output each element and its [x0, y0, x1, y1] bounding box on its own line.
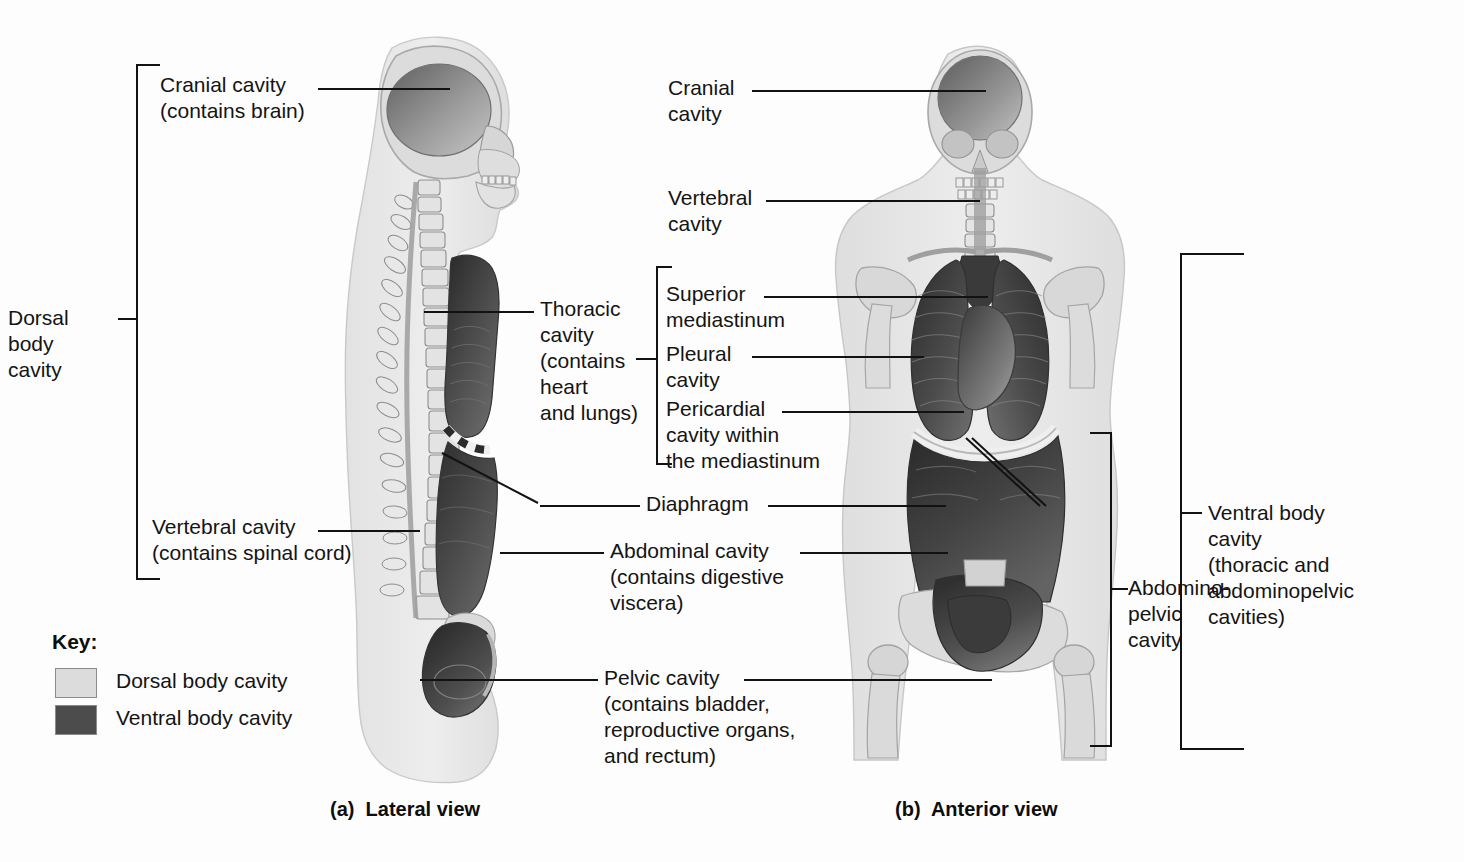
- anterior-view-figure: [810, 40, 1150, 800]
- leader-thoracic: [424, 311, 534, 313]
- key-label-ventral: Ventral body cavity: [116, 705, 292, 731]
- ventral-bracket-tick: [1180, 512, 1202, 514]
- key-label-dorsal: Dorsal body cavity: [116, 668, 288, 694]
- label-anterior-vertebral-cavity: Vertebral cavity: [668, 185, 752, 237]
- caption-anterior-view: (b) Anterior view: [895, 798, 1058, 821]
- label-diaphragm: Diaphragm: [646, 491, 749, 517]
- leader-pelvic-right: [744, 679, 992, 681]
- leader-lateral-cranial: [318, 88, 450, 90]
- abdominopelvic-bracket-tick: [1110, 588, 1128, 590]
- ventral-bracket-bottom-arm: [1180, 748, 1244, 750]
- anatomy-diagram-page: Dorsal body cavity Cranial cavity (conta…: [0, 0, 1464, 862]
- leader-anterior-cranial: [752, 90, 986, 92]
- key-swatch-ventral: [55, 705, 97, 735]
- label-superior-mediastinum: Superior mediastinum: [666, 281, 785, 333]
- label-anterior-cranial-cavity: Cranial cavity: [668, 75, 735, 127]
- anterior-cranial-cavity: [938, 56, 1022, 140]
- lateral-thoracic-cavity: [445, 255, 499, 437]
- thoracic-subdivision-bracket-top-arm: [656, 266, 672, 268]
- leader-lateral-vertebral: [318, 530, 420, 532]
- dorsal-bracket-bottom-arm: [136, 578, 160, 580]
- label-ventral-body-cavity: Ventral body cavity (thoracic and abdomi…: [1208, 500, 1354, 630]
- dorsal-bracket-spine: [136, 64, 138, 578]
- label-thoracic-cavity: Thoracic cavity (contains heart and lung…: [540, 296, 638, 426]
- thoracic-subdivision-bracket-spine: [656, 266, 658, 463]
- label-lateral-vertebral-cavity: Vertebral cavity (contains spinal cord): [152, 514, 352, 566]
- key-title: Key:: [52, 630, 98, 654]
- thoracic-subdivision-bracket-tick: [636, 358, 658, 360]
- leader-diaphragm-anterior-diagonal: [930, 428, 1050, 518]
- leader-pelvic-left: [420, 679, 598, 681]
- abdominopelvic-bracket-top-arm: [1090, 432, 1112, 434]
- leader-diaphragm-right: [768, 505, 946, 507]
- abdominopelvic-bracket-bottom-arm: [1090, 745, 1112, 747]
- leader-anterior-vertebral: [766, 200, 980, 202]
- ventral-bracket-top-arm: [1180, 253, 1244, 255]
- dorsal-bracket-top-arm: [136, 64, 160, 66]
- lateral-cranial-cavity: [387, 64, 491, 156]
- label-lateral-cranial-cavity: Cranial cavity (contains brain): [160, 72, 305, 124]
- leader-abdominal-right: [800, 552, 948, 554]
- ventral-bracket-spine: [1180, 253, 1182, 748]
- leader-diaphragm-lateral-diagonal: [438, 445, 558, 515]
- leader-superior-mediastinum: [764, 296, 988, 298]
- leader-abdominal-left: [500, 552, 604, 554]
- leader-pleural-cavity: [752, 356, 924, 358]
- label-abdominal-cavity: Abdominal cavity (contains digestive vis…: [610, 538, 784, 616]
- key-swatch-dorsal: [55, 668, 97, 698]
- label-dorsal-body-cavity: Dorsal body cavity: [8, 305, 116, 383]
- caption-lateral-view: (a) Lateral view: [330, 798, 480, 821]
- label-pleural-cavity: Pleural cavity: [666, 341, 731, 393]
- label-pericardial-cavity: Pericardial cavity within the mediastinu…: [666, 396, 820, 474]
- dorsal-bracket-tick: [118, 318, 138, 320]
- leader-pericardial-cavity: [782, 411, 964, 413]
